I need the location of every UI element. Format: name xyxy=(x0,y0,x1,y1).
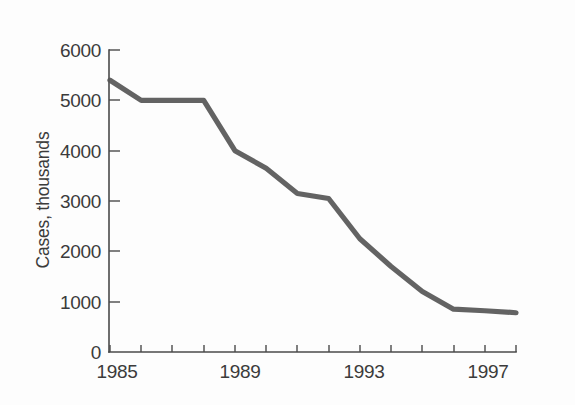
x-tick-label-1985: 1985 xyxy=(96,361,137,382)
chart-figure: 6000 5000 4000 3000 2000 1000 0 1985 198… xyxy=(0,0,575,405)
x-tick-label-1993: 1993 xyxy=(343,361,384,382)
y-tick-label-5000: 5000 xyxy=(60,90,101,111)
line-chart-plot: 6000 5000 4000 3000 2000 1000 0 1985 198… xyxy=(0,0,575,405)
y-tick-label-2000: 2000 xyxy=(60,241,101,262)
y-tick-label-3000: 3000 xyxy=(60,191,101,212)
y-axis-title: Cases, thousands xyxy=(33,131,53,268)
y-tick-label-1000: 1000 xyxy=(60,292,101,313)
y-tick-label-6000: 6000 xyxy=(60,40,101,61)
y-tick-label-4000: 4000 xyxy=(60,141,101,162)
y-tick-label-0: 0 xyxy=(91,342,101,363)
x-tick-label-1989: 1989 xyxy=(219,361,260,382)
x-tick-label-1997: 1997 xyxy=(467,361,508,382)
